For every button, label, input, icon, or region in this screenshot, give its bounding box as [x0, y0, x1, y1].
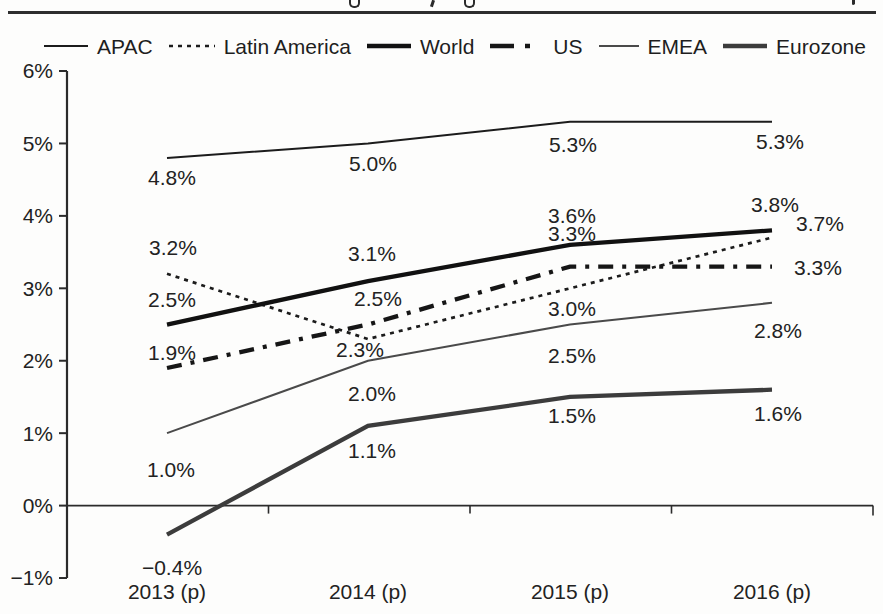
- data-label-us: 2.5%: [354, 287, 402, 310]
- series-line-apac: [167, 122, 772, 158]
- series-line-emea: [167, 303, 772, 433]
- data-label-world: 2.5%: [148, 288, 196, 311]
- data-label-latin-america: 3.2%: [149, 236, 197, 259]
- data-label-emea: 2.0%: [348, 382, 396, 405]
- x-category-label: 2013 (p): [128, 580, 206, 603]
- x-category-label: 2015 (p): [531, 580, 609, 603]
- data-label-latin-america: 3.0%: [548, 297, 596, 320]
- data-label-eurozone: 1.1%: [348, 439, 396, 462]
- data-label-latin-america: 3.7%: [796, 212, 844, 235]
- y-tick-label: 1%: [23, 422, 53, 445]
- data-label-latin-america: 2.3%: [336, 338, 384, 361]
- x-category-label: 2016 (p): [733, 580, 811, 603]
- data-label-world: 3.1%: [348, 242, 396, 265]
- series-line-world: [167, 230, 772, 324]
- data-label-eurozone: 1.6%: [754, 402, 802, 425]
- data-label-emea: 2.8%: [754, 319, 802, 342]
- data-label-us: 3.3%: [794, 256, 842, 279]
- data-label-apac: 5.0%: [349, 152, 397, 175]
- data-label-apac: 4.8%: [148, 166, 196, 189]
- data-label-apac: 5.3%: [549, 133, 597, 156]
- series-line-us: [167, 267, 772, 368]
- y-tick-label: −1%: [10, 566, 53, 589]
- y-tick-label: 6%: [23, 59, 53, 82]
- y-tick-label: 4%: [23, 204, 53, 227]
- data-label-world: 3.8%: [751, 193, 799, 216]
- y-tick-label: 2%: [23, 349, 53, 372]
- data-label-eurozone: −0.4%: [142, 556, 202, 579]
- data-label-emea: 1.0%: [147, 458, 195, 481]
- line-chart-canvas: 6%5%4%3%2%1%0%−1%4.8%5.0%5.3%5.3%3.2%2.3…: [0, 0, 883, 614]
- series-line-latin-america: [167, 238, 772, 339]
- x-category-label: 2014 (p): [329, 580, 407, 603]
- data-label-apac: 5.3%: [756, 130, 804, 153]
- data-label-us: 3.3%: [548, 222, 596, 245]
- y-tick-label: 3%: [23, 277, 53, 300]
- data-label-eurozone: 1.5%: [548, 404, 596, 427]
- y-tick-label: 0%: [23, 494, 53, 517]
- data-label-us: 1.9%: [148, 341, 196, 364]
- chart-figure: APAC Latin America World US EMEA Eurozon…: [0, 0, 883, 614]
- y-tick-label: 5%: [23, 132, 53, 155]
- data-label-emea: 2.5%: [548, 344, 596, 367]
